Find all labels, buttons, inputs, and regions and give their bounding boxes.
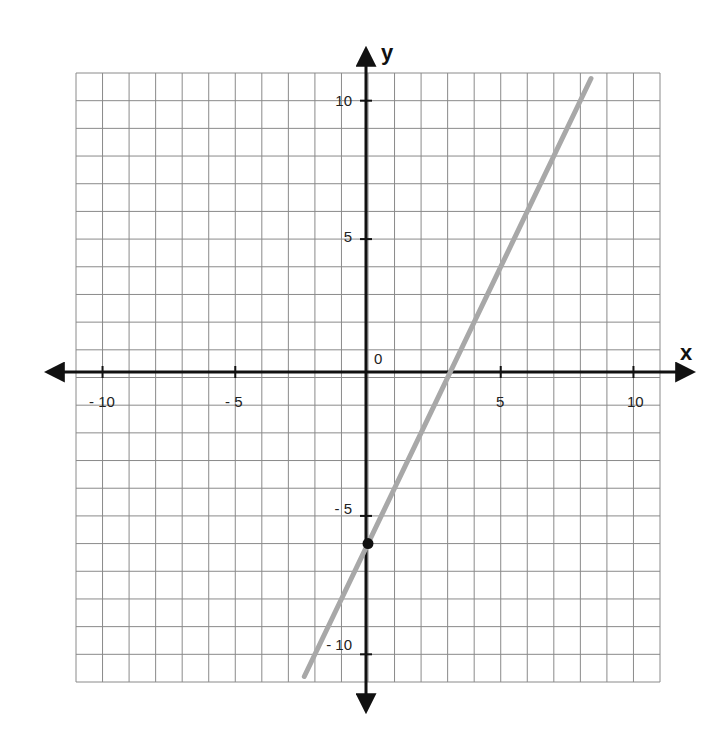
x-axis-label: x	[680, 340, 693, 365]
data-points	[363, 538, 374, 549]
grid	[76, 73, 660, 682]
y-tick-label-10: 10	[335, 92, 352, 109]
origin-label: 0	[374, 350, 382, 367]
y-axis-label: y	[381, 40, 394, 65]
x-tick-label-10: 10	[627, 393, 644, 410]
x-tick-label-neg5: - 5	[225, 393, 243, 410]
coordinate-plane: x y 0 - 10 - 5 5 10 10 5 - 5 - 10	[0, 0, 728, 747]
y-tick-label-neg10: - 10	[326, 636, 352, 653]
y-tick-label-5: 5	[344, 228, 352, 245]
y-tick-label-neg5: - 5	[334, 500, 352, 517]
x-tick-label-5: 5	[496, 393, 504, 410]
x-tick-label-neg10: - 10	[89, 393, 115, 410]
point-marker	[363, 538, 374, 549]
